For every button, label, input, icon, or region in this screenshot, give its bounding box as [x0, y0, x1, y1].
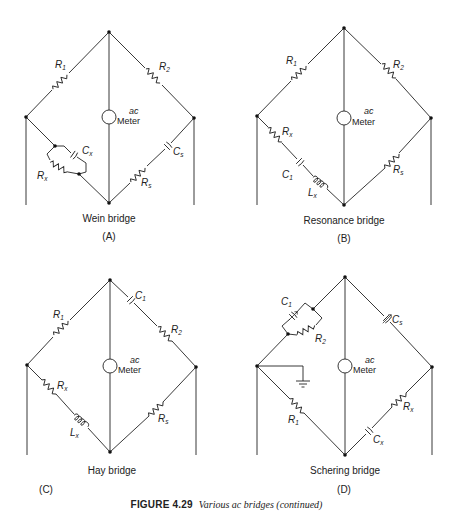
svg-text:ac: ac — [364, 106, 374, 116]
resistor-r2-icon — [296, 323, 316, 337]
figure-number: FIGURE 4.29 — [131, 499, 193, 510]
diagram-title: Wein bridge — [82, 213, 136, 224]
svg-text:R2: R2 — [159, 61, 170, 73]
svg-text:C1: C1 — [282, 169, 293, 181]
svg-text:R1: R1 — [286, 55, 297, 67]
svg-text:Cx: Cx — [82, 145, 93, 157]
diagram-title: Hay bridge — [88, 465, 137, 476]
svg-text:Meter: Meter — [118, 365, 141, 375]
svg-text:C1: C1 — [135, 290, 146, 302]
svg-text:ac: ac — [129, 106, 139, 116]
svg-text:Rs: Rs — [393, 164, 404, 176]
svg-text:Rs: Rs — [141, 177, 152, 189]
svg-text:Rs: Rs — [158, 413, 169, 425]
svg-text:Rx: Rx — [403, 401, 414, 413]
ac-meter-icon — [337, 111, 351, 125]
diagram-title: Schering bridge — [310, 465, 380, 476]
resistor-r1-icon — [51, 73, 69, 91]
figure-caption-text: Various ac bridges (continued) — [199, 499, 323, 510]
figure-caption: FIGURE 4.29Various ac bridges (continued… — [0, 499, 453, 510]
ground-icon — [296, 381, 310, 387]
resistor-rx-icon — [40, 378, 58, 396]
resistor-r1-icon — [288, 397, 306, 415]
svg-text:Cs: Cs — [392, 314, 403, 326]
svg-text:C1: C1 — [281, 296, 292, 308]
svg-text:Lx: Lx — [308, 187, 318, 199]
svg-text:R1: R1 — [288, 414, 299, 426]
svg-text:Cs: Cs — [173, 146, 184, 158]
svg-text:Rx: Rx — [282, 126, 293, 138]
ac-meter-icon — [338, 359, 352, 373]
panel-label: (C) — [39, 484, 53, 495]
svg-text:Meter: Meter — [117, 116, 140, 126]
wein-bridge-diagram — [24, 30, 196, 205]
resistor-r1-icon — [52, 319, 70, 337]
svg-text:Lx: Lx — [70, 427, 80, 439]
hay-bridge-diagram — [25, 278, 198, 455]
svg-text:Rx: Rx — [57, 380, 68, 392]
capacitor-cx-icon — [71, 151, 79, 160]
resistor-rx-icon — [49, 160, 69, 174]
svg-text:R1: R1 — [55, 59, 66, 71]
svg-text:Meter: Meter — [353, 365, 376, 375]
svg-text:R2: R2 — [171, 324, 182, 336]
ac-bridges-figure: R1 R2 Cx Rx Cs Rs ac Meter Wein bridge (… — [0, 0, 453, 517]
panel-label: (B) — [337, 233, 350, 244]
svg-text:R2: R2 — [393, 59, 404, 71]
inductor-lx-icon — [311, 175, 329, 191]
panel-label: (A) — [102, 231, 115, 242]
ac-meter-icon — [103, 359, 117, 373]
svg-text:Cx: Cx — [373, 434, 384, 446]
svg-text:R2: R2 — [315, 333, 326, 345]
svg-text:R1: R1 — [53, 309, 64, 321]
svg-text:ac: ac — [365, 355, 375, 365]
svg-text:Meter: Meter — [352, 117, 375, 127]
panel-label: (D) — [337, 484, 351, 495]
svg-text:Rx: Rx — [37, 170, 48, 182]
diagram-title: Resonance bridge — [303, 215, 385, 226]
ac-meter-icon — [102, 110, 116, 124]
svg-text:ac: ac — [130, 355, 140, 365]
